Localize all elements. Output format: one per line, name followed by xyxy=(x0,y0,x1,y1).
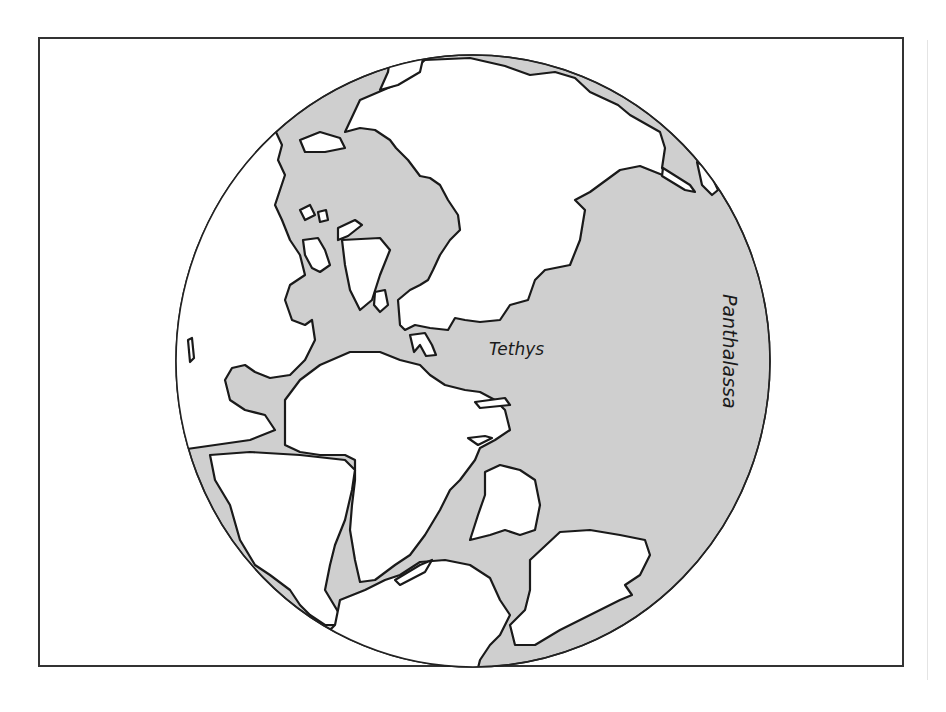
label-tethys: Tethys xyxy=(489,339,544,359)
island-west-coast xyxy=(188,338,194,362)
globe-map: Tethys Panthalassa xyxy=(0,0,946,712)
island-3 xyxy=(318,210,328,222)
label-panthalassa: Panthalassa xyxy=(719,294,741,409)
